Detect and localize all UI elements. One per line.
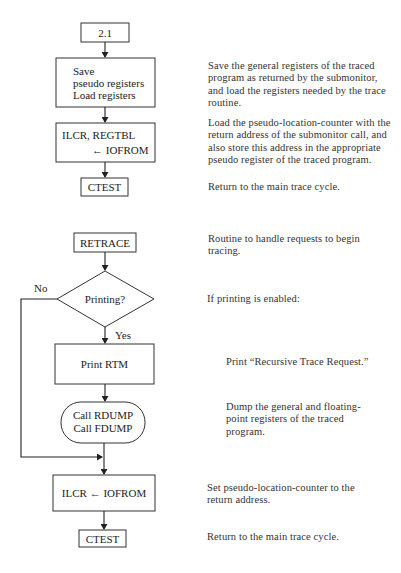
yes-branch-label: Yes xyxy=(115,329,131,341)
description-save: Save the general registers of the traced… xyxy=(208,60,393,109)
ctest-bottom-label: CTEST xyxy=(86,533,120,545)
entry-label: 2.1 xyxy=(98,27,112,39)
call-line-2: Call FDUMP xyxy=(74,422,133,434)
description-ilcr: Load the pseudo-location-counter with th… xyxy=(208,117,398,166)
save-line-1: Save xyxy=(73,65,95,77)
node-decision-printing: Printing? xyxy=(57,271,154,327)
ilcr-line-1: ILCR, REGTBL xyxy=(62,129,136,141)
print-rtm-label: Print RTM xyxy=(81,358,129,370)
ilcr-iofrom-label: ILCR ← IOFROM xyxy=(62,487,147,499)
node-ilcr-regtbl: ILCR, REGTBL ← IOFROM xyxy=(56,123,155,162)
retrace-label: RETRACE xyxy=(80,237,130,249)
description-printing: If printing is enabled: xyxy=(207,293,397,305)
node-retrace: RETRACE xyxy=(74,233,136,252)
call-line-1: Call RDUMP xyxy=(73,409,133,421)
description-ctest-bottom: Return to the main trace cycle. xyxy=(207,531,397,543)
node-save-registers: Save pseudo registers Load registers xyxy=(56,58,155,107)
no-branch-label: No xyxy=(34,282,48,294)
description-dump: Dump the general and floating-point regi… xyxy=(226,401,376,438)
node-ctest-top: CTEST xyxy=(81,178,128,196)
node-ilcr-iofrom: ILCR ← IOFROM xyxy=(53,475,155,511)
save-line-3: Load registers xyxy=(73,89,136,101)
description-retrace: Routine to handle requests to begin trac… xyxy=(208,233,393,258)
save-line-2: pseudo registers xyxy=(73,77,144,89)
node-print-rtm: Print RTM xyxy=(55,344,154,384)
node-ctest-bottom: CTEST xyxy=(79,530,126,547)
description-ctest-top: Return to the main trace cycle. xyxy=(208,181,398,193)
description-print-rtm: Print “Recursive Trace Request.” xyxy=(226,356,401,368)
ilcr-line-2: ← IOFROM xyxy=(92,144,149,156)
node-call-dump: Call RDUMP Call FDUMP xyxy=(61,402,145,443)
ctest-label: CTEST xyxy=(88,181,122,193)
node-entry-2-1: 2.1 xyxy=(81,23,129,42)
description-set-plc: Set pseudo-location-counter to the retur… xyxy=(207,482,382,507)
decision-label: Printing? xyxy=(85,293,125,305)
